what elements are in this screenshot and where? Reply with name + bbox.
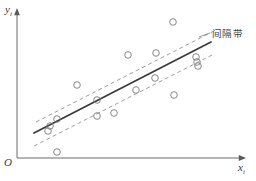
data-point (170, 19, 177, 26)
annotation-leader-line (199, 33, 210, 37)
x-axis-label-subscript: i (243, 168, 245, 175)
data-point (171, 92, 178, 99)
data-point (74, 82, 81, 89)
data-point (133, 87, 140, 94)
y-axis-label-subscript: i (10, 10, 12, 17)
data-point (152, 75, 159, 82)
margin-lower-bound-line (34, 55, 212, 146)
data-point (153, 50, 160, 57)
scatter-plot-figure: yi xi O 间隔带 (0, 0, 256, 181)
margin-band-annotation-label: 间隔带 (212, 29, 243, 39)
x-axis-label: xi (238, 162, 245, 176)
margin-band-group (34, 31, 214, 146)
data-point (54, 149, 61, 156)
data-point (125, 52, 132, 59)
data-point (195, 63, 202, 70)
margin-upper-bound-line (36, 31, 214, 122)
origin-label: O (4, 157, 12, 168)
y-axis-arrow-icon (14, 8, 20, 15)
y-axis-label: yi (5, 4, 12, 18)
data-point (111, 110, 118, 117)
